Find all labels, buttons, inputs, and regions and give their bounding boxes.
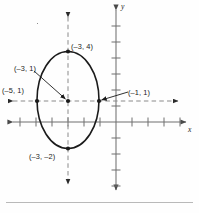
right-vertex-label: (–1, 1) [128,88,150,97]
ellipse-graph-figure: (–3, 4) (–3, 1) (–5, 1) (–1, 1) (–3, –2)… [0,0,199,213]
center-label: (–3, 1) [14,64,36,73]
point-top-vertex [66,49,70,53]
left-vertex-label: (–5, 1) [2,86,24,95]
top-vertex-label: (–3, 4) [71,42,93,51]
y-axis-label: y [121,2,124,11]
bottom-vertex-label: (–3, –2) [29,152,55,161]
point-left-vertex [35,99,39,103]
point-bottom-vertex [66,146,70,150]
page-bottom-rule [6,202,193,203]
right-vertex-leader-line [102,92,129,100]
point-center [66,99,70,103]
page-speck [37,23,38,24]
y-axis [112,10,121,190]
point-right-vertex [97,99,101,103]
x-axis-label: x [188,125,191,134]
coordinate-plane-canvas [0,0,199,213]
